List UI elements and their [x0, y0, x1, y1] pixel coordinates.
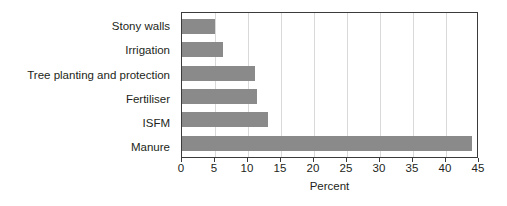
- x-tick-label: 20: [307, 162, 320, 174]
- category-label-stony-walls: Stony walls: [0, 14, 176, 38]
- bar-row: [182, 62, 477, 85]
- bar-chart: Stony walls Irrigation Tree planting and…: [0, 0, 507, 206]
- bar-isfm: [182, 112, 268, 127]
- bar-series: [182, 13, 477, 157]
- x-tick-label: 30: [373, 162, 386, 174]
- bar-row: [182, 108, 477, 131]
- x-tick-label: 45: [472, 162, 485, 174]
- x-tick-label: 0: [178, 162, 184, 174]
- category-label-irrigation: Irrigation: [0, 38, 176, 62]
- category-axis: Stony walls Irrigation Tree planting and…: [0, 12, 176, 158]
- x-tick-label: 15: [274, 162, 287, 174]
- bar-tree-planting-and-protection: [182, 66, 255, 81]
- bar-row: [182, 85, 477, 108]
- x-tick-label: 40: [439, 162, 452, 174]
- bar-row: [182, 132, 477, 155]
- x-tick-label: 10: [241, 162, 254, 174]
- x-tick-label: 5: [211, 162, 217, 174]
- category-label-fertiliser: Fertiliser: [0, 87, 176, 111]
- value-axis: 051015202530354045: [181, 158, 478, 176]
- bar-row: [182, 15, 477, 38]
- x-tick-label: 35: [406, 162, 419, 174]
- bar-irrigation: [182, 42, 223, 57]
- bar-manure: [182, 136, 472, 151]
- x-tick-label: 25: [340, 162, 353, 174]
- category-label-tree-planting-and-protection: Tree planting and protection: [0, 63, 176, 87]
- x-axis-title: Percent: [181, 180, 478, 192]
- bar-stony-walls: [182, 19, 215, 34]
- plot-area: [181, 12, 478, 158]
- category-label-manure: Manure: [0, 135, 176, 159]
- bar-fertiliser: [182, 89, 257, 104]
- bar-row: [182, 38, 477, 61]
- category-label-isfm: ISFM: [0, 111, 176, 135]
